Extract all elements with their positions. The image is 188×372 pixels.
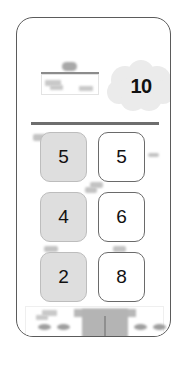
card-row: 5 5 (29, 132, 161, 183)
number-card-right[interactable]: 5 (98, 132, 145, 182)
target-total-badge[interactable]: 10 (105, 60, 171, 112)
header-divider (31, 122, 159, 125)
bottom-toolbar (25, 306, 164, 337)
obscured-pill-shape (62, 62, 77, 71)
phone-frame: 10 5 5 4 6 (16, 17, 171, 337)
card-row: 2 8 (29, 252, 161, 303)
connector-notch-icon (85, 187, 97, 193)
obscured-chip-c (79, 86, 93, 91)
number-card-left[interactable]: 4 (40, 192, 87, 242)
toolbar-item-1[interactable] (38, 324, 51, 330)
toolbar-item-2[interactable] (57, 324, 70, 330)
number-card-left[interactable]: 2 (40, 252, 87, 302)
number-card-right[interactable]: 6 (98, 192, 145, 242)
number-card-grid: 5 5 4 6 2 8 (29, 128, 161, 305)
dash-notch-icon (148, 153, 159, 157)
card-row: 4 6 (29, 192, 161, 243)
number-card-value: 5 (116, 146, 127, 168)
primary-button-divider (104, 316, 106, 337)
toolbar-item-3[interactable] (134, 324, 147, 330)
target-total-value: 10 (105, 60, 171, 112)
number-card-value: 5 (58, 146, 69, 168)
number-card-value: 4 (58, 206, 69, 228)
header-area: 10 (17, 18, 170, 106)
obscured-chip-b (36, 315, 48, 320)
number-card-right[interactable]: 8 (98, 252, 145, 302)
number-card-value: 6 (116, 206, 127, 228)
obscured-chip-b (50, 85, 63, 90)
toolbar-item-4[interactable] (153, 324, 166, 330)
number-card-value: 8 (116, 266, 127, 288)
number-card-left[interactable]: 5 (40, 132, 87, 182)
number-card-value: 2 (58, 266, 69, 288)
